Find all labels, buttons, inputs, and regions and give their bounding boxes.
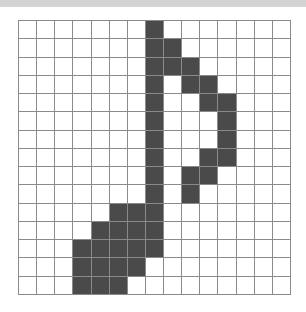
grid-cell[interactable] — [164, 76, 182, 94]
grid-cell[interactable] — [273, 131, 291, 149]
grid-cell[interactable] — [92, 58, 110, 76]
grid-cell[interactable] — [237, 94, 255, 112]
grid-cell[interactable] — [273, 258, 291, 276]
grid-cell[interactable] — [164, 149, 182, 167]
grid-cell[interactable] — [164, 112, 182, 130]
grid-cell[interactable] — [37, 277, 55, 295]
grid-cell[interactable] — [19, 240, 37, 258]
grid-cell[interactable] — [73, 185, 91, 203]
grid-cell[interactable] — [218, 76, 236, 94]
grid-cell[interactable] — [73, 21, 91, 39]
grid-cell[interactable] — [55, 94, 73, 112]
grid-cell[interactable] — [164, 222, 182, 240]
grid-cell[interactable] — [255, 204, 273, 222]
grid-cell[interactable] — [19, 149, 37, 167]
grid-cell[interactable] — [146, 112, 164, 130]
grid-cell[interactable] — [19, 277, 37, 295]
grid-cell[interactable] — [164, 39, 182, 57]
grid-cell[interactable] — [110, 39, 128, 57]
grid-cell[interactable] — [255, 58, 273, 76]
grid-cell[interactable] — [92, 149, 110, 167]
grid-cell[interactable] — [273, 39, 291, 57]
grid-cell[interactable] — [110, 258, 128, 276]
grid-cell[interactable] — [128, 76, 146, 94]
grid-cell[interactable] — [19, 204, 37, 222]
grid-cell[interactable] — [110, 240, 128, 258]
grid-cell[interactable] — [19, 131, 37, 149]
grid-cell[interactable] — [182, 21, 200, 39]
grid-cell[interactable] — [255, 258, 273, 276]
grid-cell[interactable] — [73, 39, 91, 57]
grid-cell[interactable] — [237, 204, 255, 222]
grid-cell[interactable] — [19, 185, 37, 203]
grid-cell[interactable] — [273, 167, 291, 185]
grid-cell[interactable] — [19, 39, 37, 57]
grid-cell[interactable] — [110, 277, 128, 295]
grid-cell[interactable] — [200, 240, 218, 258]
grid-cell[interactable] — [146, 204, 164, 222]
grid-cell[interactable] — [146, 131, 164, 149]
grid-cell[interactable] — [146, 277, 164, 295]
grid-cell[interactable] — [37, 76, 55, 94]
grid-cell[interactable] — [128, 149, 146, 167]
grid-cell[interactable] — [110, 185, 128, 203]
grid-cell[interactable] — [255, 39, 273, 57]
grid-cell[interactable] — [128, 240, 146, 258]
pixel-art-grid[interactable] — [18, 20, 291, 295]
grid-cell[interactable] — [146, 167, 164, 185]
grid-cell[interactable] — [146, 39, 164, 57]
grid-cell[interactable] — [146, 149, 164, 167]
grid-cell[interactable] — [218, 204, 236, 222]
grid-cell[interactable] — [164, 277, 182, 295]
grid-cell[interactable] — [200, 131, 218, 149]
grid-cell[interactable] — [218, 277, 236, 295]
grid-cell[interactable] — [200, 204, 218, 222]
grid-cell[interactable] — [182, 149, 200, 167]
grid-cell[interactable] — [164, 240, 182, 258]
grid-cell[interactable] — [92, 76, 110, 94]
grid-cell[interactable] — [255, 76, 273, 94]
grid-cell[interactable] — [128, 258, 146, 276]
grid-cell[interactable] — [237, 258, 255, 276]
grid-cell[interactable] — [255, 277, 273, 295]
grid-cell[interactable] — [164, 204, 182, 222]
grid-cell[interactable] — [182, 131, 200, 149]
grid-cell[interactable] — [128, 167, 146, 185]
grid-cell[interactable] — [73, 167, 91, 185]
grid-cell[interactable] — [128, 58, 146, 76]
grid-cell[interactable] — [92, 204, 110, 222]
grid-cell[interactable] — [237, 21, 255, 39]
grid-cell[interactable] — [19, 167, 37, 185]
grid-cell[interactable] — [110, 76, 128, 94]
grid-cell[interactable] — [146, 21, 164, 39]
grid-cell[interactable] — [182, 58, 200, 76]
grid-cell[interactable] — [218, 21, 236, 39]
grid-cell[interactable] — [73, 149, 91, 167]
grid-cell[interactable] — [37, 167, 55, 185]
grid-cell[interactable] — [55, 112, 73, 130]
grid-cell[interactable] — [128, 112, 146, 130]
grid-cell[interactable] — [73, 94, 91, 112]
grid-cell[interactable] — [37, 258, 55, 276]
grid-cell[interactable] — [237, 185, 255, 203]
grid-cell[interactable] — [164, 58, 182, 76]
grid-cell[interactable] — [19, 222, 37, 240]
grid-cell[interactable] — [146, 185, 164, 203]
grid-cell[interactable] — [37, 185, 55, 203]
grid-cell[interactable] — [19, 94, 37, 112]
grid-cell[interactable] — [55, 39, 73, 57]
grid-cell[interactable] — [218, 240, 236, 258]
grid-cell[interactable] — [182, 94, 200, 112]
grid-cell[interactable] — [255, 240, 273, 258]
grid-cell[interactable] — [273, 58, 291, 76]
grid-cell[interactable] — [164, 258, 182, 276]
grid-cell[interactable] — [200, 39, 218, 57]
grid-cell[interactable] — [182, 258, 200, 276]
grid-cell[interactable] — [237, 222, 255, 240]
grid-cell[interactable] — [255, 112, 273, 130]
grid-cell[interactable] — [237, 58, 255, 76]
grid-cell[interactable] — [110, 149, 128, 167]
grid-cell[interactable] — [273, 149, 291, 167]
grid-cell[interactable] — [110, 21, 128, 39]
grid-cell[interactable] — [37, 21, 55, 39]
